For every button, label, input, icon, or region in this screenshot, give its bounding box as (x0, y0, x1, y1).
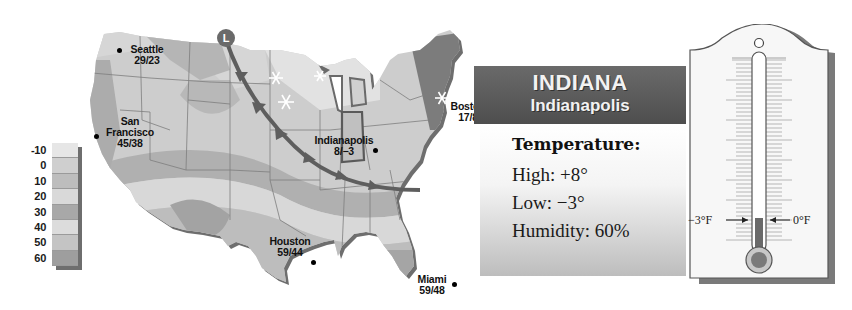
legend-swatch (52, 251, 78, 266)
city-temps: 59/44 (266, 247, 314, 258)
legend-label: 40 (10, 220, 46, 235)
state-title: INDIANA (474, 70, 686, 96)
legend-swatch (52, 143, 78, 158)
legend-label: -10 (10, 143, 46, 158)
city-label-miami: Miami 59/48 (410, 274, 454, 296)
svg-text:L: L (223, 32, 230, 44)
legend-label: 30 (10, 205, 46, 220)
legend-label: 20 (10, 189, 46, 204)
city-temps: 29/23 (122, 55, 172, 66)
temperature-heading: Temperature: (512, 134, 640, 154)
thermometer-right-label: 0°F (793, 213, 810, 228)
legend-swatch (52, 158, 78, 173)
location-banner: INDIANA Indianapolis (474, 66, 686, 124)
city-dot-miami (452, 282, 457, 287)
city-temps: 8/−3 (308, 146, 380, 157)
city-title: Indianapolis (474, 96, 686, 116)
legend-swatch (52, 220, 78, 235)
city-label-san-francisco: San Francisco 45/38 (98, 116, 162, 149)
legend-swatch (52, 205, 78, 220)
legend-swatch (52, 174, 78, 189)
city-temps: 45/38 (98, 138, 162, 149)
us-weather-map: L Seattle 29/23 San Francisco 45/38 Indi… (80, 20, 500, 290)
city-temps: 59/48 (410, 285, 454, 296)
city-label-seattle: Seattle 29/23 (122, 44, 172, 66)
legend-labels: -10 0 10 20 30 40 50 60 (10, 143, 46, 266)
legend-label: 10 (10, 174, 46, 189)
city-dot-houston (311, 260, 316, 265)
legend-label: 60 (10, 251, 46, 266)
city-dot-indianapolis (373, 148, 378, 153)
temperature-legend: -10 0 10 20 30 40 50 60 (10, 143, 76, 269)
city-label-houston: Houston 59/44 (266, 236, 314, 258)
legend-swatch (52, 235, 78, 250)
legend-swatch (52, 189, 78, 204)
weather-info-panel: Temperature: High: +8° Low: −3° Humidity… (480, 124, 686, 276)
thermometer: −3°F 0°F (686, 24, 836, 284)
humidity: Humidity: 60% (512, 220, 630, 242)
thermometer-icon (686, 24, 836, 284)
high-temperature: High: +8° (512, 164, 588, 186)
legend-label: 0 (10, 158, 46, 173)
legend-swatches (52, 143, 78, 266)
low-temperature: Low: −3° (512, 192, 585, 214)
city-label-indianapolis: Indianapolis 8/−3 (308, 135, 380, 157)
legend-label: 50 (10, 235, 46, 250)
thermometer-left-label: −3°F (688, 213, 712, 228)
